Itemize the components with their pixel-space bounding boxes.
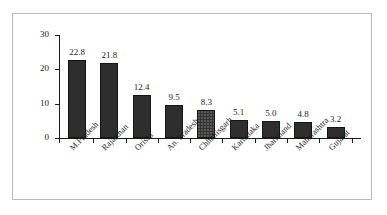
y-tick-label: 0 [23,133,49,142]
figure: 0102030 22.821.812.49.58.35.15.04.83.2 M… [0,0,387,215]
x-tick-mark [222,138,223,143]
x-tick-mark [319,138,320,143]
y-tick-mark [55,35,59,36]
x-tick-mark [255,138,256,143]
chart-frame: 0102030 22.821.812.49.58.35.15.04.83.2 M… [12,13,372,200]
x-tick-mark [93,138,94,143]
bar-value-label: 8.3 [186,98,226,107]
y-tick-label: 30 [23,30,49,39]
bar [68,60,86,138]
x-tick-mark [59,138,60,143]
x-tick-mark [190,138,191,143]
x-tick-mark [158,138,159,143]
bar [100,63,118,138]
y-tick-label: 20 [23,64,49,73]
x-tick-mark [126,138,127,143]
y-tick-label: 10 [23,99,49,108]
y-tick-mark [55,104,59,105]
bar-value-label: 12.4 [122,83,162,92]
bar-value-label: 21.8 [89,51,129,60]
x-tick-mark [352,138,353,143]
plot-area: 0102030 22.821.812.49.58.35.15.04.83.2 M… [13,14,373,201]
y-tick-mark [55,69,59,70]
x-tick-mark [287,138,288,143]
